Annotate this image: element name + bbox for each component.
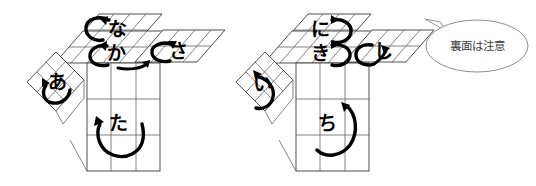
right-cube-label-ki: き bbox=[311, 42, 330, 64]
speech-bubble-text: 裏面は注意 bbox=[450, 39, 505, 53]
left-cube-label-ka: か bbox=[107, 42, 126, 64]
left-cube-label-ta: た bbox=[109, 112, 128, 134]
diagram-canvas: な か さ あ た bbox=[0, 0, 536, 186]
right-cube-label-ni: に bbox=[311, 18, 330, 40]
cube-net-diagram: な か さ あ た bbox=[0, 0, 536, 186]
right-cube: に き し い ち bbox=[236, 14, 434, 171]
left-cube: な か さ あ た bbox=[27, 14, 225, 171]
left-cube-label-a: あ bbox=[48, 71, 67, 93]
right-cube-label-chi: ち bbox=[318, 112, 337, 134]
speech-bubble: 裏面は注意 bbox=[425, 19, 528, 72]
